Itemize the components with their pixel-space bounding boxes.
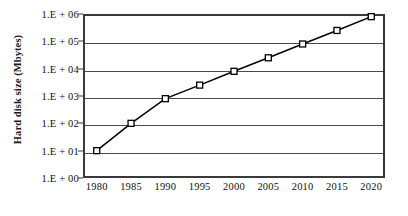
gridline [85, 43, 383, 44]
x-axis-tick-label: 2005 [257, 181, 279, 192]
plot-area [83, 14, 385, 178]
y-axis-tick-label: 1.E + 03 [41, 91, 79, 102]
hard-disk-size-chart: Hard disk size (Mbytes) 1.E + 061.E + 05… [0, 0, 408, 216]
x-axis-tick-label: 2000 [223, 181, 245, 192]
y-axis-tick-label: 1.E + 06 [41, 9, 79, 20]
x-axis-tick-label: 1980 [86, 181, 108, 192]
x-axis-tick-label: 1990 [154, 181, 176, 192]
y-axis-tick-label: 1.E + 00 [41, 173, 79, 184]
x-axis-tick-label: 1985 [120, 181, 142, 192]
y-axis-tick-label: 1.E + 01 [41, 145, 79, 156]
gridline [85, 98, 383, 99]
y-axis-tick-label: 1.E + 04 [41, 63, 79, 74]
gridline [85, 71, 383, 72]
x-axis-tick-label: 2010 [292, 181, 314, 192]
y-axis-title: Hard disk size (Mbytes) [12, 10, 23, 170]
x-axis-tick-label: 2015 [326, 181, 348, 192]
gridline [85, 125, 383, 126]
x-axis-tick-label: 1995 [189, 181, 211, 192]
x-axis-tick-label: 2020 [360, 181, 382, 192]
gridlines [85, 16, 383, 176]
y-axis-tick-label: 1.E + 05 [41, 36, 79, 47]
y-axis-tick-label: 1.E + 02 [41, 118, 79, 129]
gridline [85, 153, 383, 154]
